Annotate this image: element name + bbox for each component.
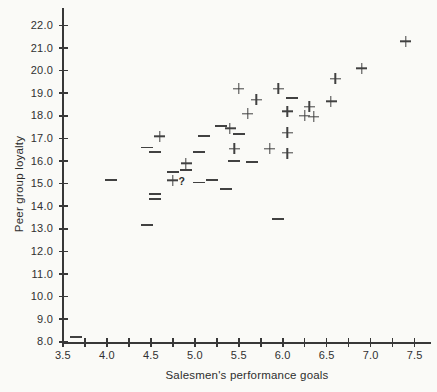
y-tick-mark: [59, 273, 68, 275]
plus-marker: [282, 106, 293, 117]
minus-marker: [220, 188, 232, 190]
plus-marker: [264, 143, 275, 154]
x-tick-mark: [106, 338, 108, 347]
plus-marker: [330, 73, 341, 84]
plus-marker: [326, 96, 337, 107]
y-tick-mark: [59, 251, 68, 253]
plus-marker: [251, 94, 262, 105]
x-tick-mark: [84, 338, 86, 347]
x-tick-mark: [216, 338, 218, 347]
y-axis-title: Peer group loyalty: [13, 136, 25, 232]
plus-marker: [233, 83, 244, 94]
x-tick-mark: [414, 338, 416, 347]
x-tick-mark: [128, 338, 130, 347]
x-tick-mark: [194, 338, 196, 347]
x-tick-label: 7.0: [354, 349, 388, 361]
plus-marker: [229, 143, 240, 154]
minus-marker: [233, 133, 245, 135]
x-tick-mark: [326, 338, 328, 347]
y-tick-mark: [59, 70, 68, 72]
minus-marker: [193, 151, 205, 153]
y-axis-line: [62, 8, 64, 344]
plus-marker: [282, 148, 293, 159]
minus-marker: [193, 182, 205, 184]
y-tick-label: 12.0: [21, 245, 53, 258]
minus-marker: [246, 161, 258, 163]
question-mark-annotation: ?: [178, 175, 184, 187]
y-tick-mark: [59, 92, 68, 94]
x-tick-mark: [370, 338, 372, 347]
minus-marker: [141, 147, 153, 149]
y-tick-label: 11.0: [21, 268, 53, 281]
x-tick-label: 4.0: [90, 349, 124, 361]
y-tick-label: 16.0: [21, 155, 53, 168]
y-tick-mark: [59, 318, 68, 320]
x-tick-label: 6.5: [310, 349, 344, 361]
y-tick-label: 8.0: [21, 335, 53, 348]
x-tick-mark: [348, 338, 350, 347]
minus-marker: [105, 179, 117, 181]
minus-marker: [286, 97, 298, 99]
y-tick-mark: [59, 160, 68, 162]
y-tick-label: 20.0: [21, 64, 53, 77]
x-tick-label: 5.5: [222, 349, 256, 361]
x-tick-mark: [282, 338, 284, 347]
y-tick-label: 15.0: [21, 177, 53, 190]
minus-marker: [149, 193, 161, 195]
plus-marker: [308, 111, 319, 122]
plus-marker: [273, 83, 284, 94]
minus-marker: [228, 160, 240, 162]
minus-marker: [180, 169, 192, 171]
plus-marker: [242, 108, 253, 119]
scatter-plot-figure: 22.021.020.019.018.017.016.015.014.013.0…: [0, 0, 437, 392]
x-tick-mark: [62, 338, 64, 347]
x-axis-title: Salesmen's performance goals: [165, 369, 328, 381]
y-tick-label: 22.0: [21, 19, 53, 32]
y-tick-label: 10.0: [21, 290, 53, 303]
minus-marker: [70, 336, 82, 338]
plus-marker: [282, 127, 293, 138]
minus-marker: [198, 135, 210, 137]
minus-marker: [141, 224, 153, 226]
y-tick-mark: [59, 47, 68, 49]
y-tick-label: 14.0: [21, 200, 53, 213]
y-tick-label: 17.0: [21, 132, 53, 145]
minus-marker: [215, 125, 227, 127]
y-tick-label: 19.0: [21, 87, 53, 100]
x-tick-label: 7.5: [398, 349, 432, 361]
x-tick-label: 4.5: [134, 349, 168, 361]
y-tick-mark: [59, 205, 68, 207]
y-tick-mark: [59, 296, 68, 298]
y-tick-mark: [59, 115, 68, 117]
y-tick-label: 21.0: [21, 42, 53, 55]
x-tick-mark: [172, 338, 174, 347]
plus-marker: [356, 63, 367, 74]
x-axis-line: [62, 342, 431, 344]
plus-marker: [167, 175, 178, 186]
plus-marker: [400, 36, 411, 47]
x-tick-mark: [150, 338, 152, 347]
minus-marker: [167, 171, 179, 173]
x-tick-mark: [304, 338, 306, 347]
plus-marker: [154, 131, 165, 142]
minus-marker: [272, 218, 284, 220]
y-tick-mark: [59, 183, 68, 185]
y-tick-label: 9.0: [21, 313, 53, 326]
minus-marker: [149, 151, 161, 153]
minus-marker: [149, 198, 161, 200]
x-tick-label: 3.5: [46, 349, 80, 361]
x-tick-mark: [238, 338, 240, 347]
y-tick-label: 18.0: [21, 109, 53, 122]
x-tick-label: 5.0: [178, 349, 212, 361]
y-tick-mark: [59, 25, 68, 27]
x-tick-mark: [260, 338, 262, 347]
plus-marker: [181, 158, 192, 169]
minus-marker: [206, 179, 218, 181]
x-tick-mark: [392, 338, 394, 347]
y-tick-mark: [59, 138, 68, 140]
y-tick-mark: [59, 228, 68, 230]
y-tick-label: 13.0: [21, 222, 53, 235]
x-tick-label: 6.0: [266, 349, 300, 361]
